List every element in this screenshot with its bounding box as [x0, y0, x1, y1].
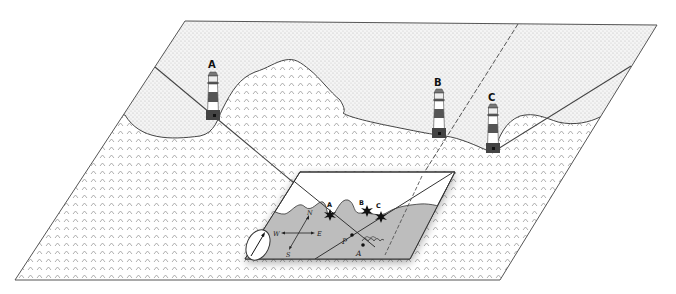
compass-south-label: S — [286, 251, 291, 259]
position-fix-label: P — [341, 237, 348, 246]
inset-label-a: A — [327, 201, 332, 209]
position-fix-point — [350, 233, 354, 237]
navigation-diagram: A B C A B C — [0, 0, 676, 294]
dead-reckoning-point — [361, 243, 365, 247]
lighthouse-b-label: B — [434, 77, 442, 88]
diagram-stage: A B C A B C — [0, 0, 676, 294]
inset-label-b: B — [359, 199, 364, 207]
compass-east-label: E — [316, 230, 322, 238]
lighthouse-a-label: A — [208, 59, 216, 70]
lighthouse-c-label: C — [488, 92, 495, 103]
compass-north-label: N — [306, 209, 313, 217]
dead-reckoning-label: A — [355, 249, 362, 258]
inset-label-c: C — [376, 202, 381, 210]
